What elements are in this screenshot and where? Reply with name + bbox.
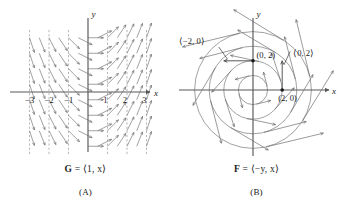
panel-a-vector-shaft: [147, 116, 152, 131]
panel-a-vector: [30, 38, 35, 53]
panel-a-vector: [30, 53, 35, 68]
panel-a-vector-shaft: [30, 38, 35, 53]
panel-a-vector: [127, 55, 134, 69]
panel-b-vector: [264, 121, 306, 132]
panel-a-vector: [49, 69, 56, 83]
panel-a-vector: [98, 124, 112, 131]
panel-a-vector: [49, 53, 56, 67]
panel-b-vector: [257, 100, 271, 104]
panel-b-vector-shaft: [247, 119, 276, 125]
panel-a-vector-shaft: [137, 132, 143, 146]
panel-b-vector: [284, 37, 295, 79]
panel-a-vector-shaft: [127, 101, 134, 115]
panel-a-vector: [127, 39, 134, 53]
panel-a-vector-shaft: [78, 115, 92, 122]
panel-a-vector: [88, 68, 104, 70]
panel-a-vector: [98, 31, 112, 38]
panel-b-vector: [231, 128, 269, 150]
panel-a-vector: [137, 116, 143, 130]
panel-b-vector: [225, 99, 234, 127]
panel-b-vector: [212, 70, 232, 92]
panel-b-vector-shaft: [193, 68, 215, 106]
panel-a-vector: [39, 115, 45, 129]
panel-a-vector: [59, 38, 68, 51]
panel-a-vector-shaft: [49, 69, 56, 83]
panel-a-vector: [137, 23, 143, 37]
panel-a-vector-shaft: [59, 115, 68, 128]
panel-a-vector: [39, 69, 45, 83]
panel-a-vector: [98, 108, 112, 115]
panel-a-vector-field-G: xy−3−2−1123 G = ⟨1, x⟩ (A): [0, 0, 171, 213]
panel-b-vector-shaft: [231, 128, 269, 150]
panel-a-vector-shaft: [59, 131, 68, 144]
panel-a-vector: [78, 100, 92, 107]
panel-a-vector: [78, 53, 92, 60]
panel-b-vector-shaft: [285, 37, 296, 79]
panel-a-vector-shaft: [147, 23, 152, 38]
panel-a-vector-shaft: [137, 70, 143, 84]
panel-a-vector-shaft: [137, 116, 143, 130]
panel-a-vector: [88, 52, 104, 54]
panel-b-vector-shaft: [267, 133, 324, 147]
panel-a-vector-shaft: [127, 24, 134, 38]
panel-b-vector-shaft: [211, 101, 222, 143]
panel-a-vector: [98, 62, 112, 69]
panel-b-vector-shaft: [303, 71, 334, 121]
panel-a-vector: [147, 116, 152, 131]
panel-a-vector: [147, 23, 152, 38]
panel-a-vector-shaft: [78, 53, 92, 60]
panel-a-vector-shaft: [98, 46, 112, 53]
panel-a-vector-shaft: [98, 108, 112, 115]
panel-b-vector: [263, 72, 267, 86]
panel-a-xtick-1: −2: [45, 95, 54, 105]
panel-b-x-axis-tip: [325, 88, 330, 93]
panel-b-vector-shaft: [212, 70, 232, 92]
panel-a-vector-shaft: [69, 115, 80, 126]
panel-a-x-axis-label: x: [153, 88, 158, 98]
panel-a-vector-shaft: [39, 131, 45, 145]
panel-a-vector-shaft: [147, 54, 152, 69]
panel-a-vector-shaft: [137, 54, 143, 68]
panel-b-vector-field-F: xy⟨−2, 0⟩(0, 2)⟨0, 2⟩(2, 0) F = ⟨−y, x⟩ …: [171, 0, 342, 213]
panel-b-annotation-vector-0-2: ⟨0, 2⟩: [293, 48, 314, 58]
panel-a-vector: [88, 145, 104, 147]
panel-a-vector: [59, 115, 68, 128]
panel-a-vector: [59, 69, 68, 82]
panel-a-vector-shaft: [98, 77, 112, 84]
panel-a-xtick-5: 3: [142, 95, 146, 105]
panel-b-y-axis-label: y: [256, 9, 261, 19]
panel-b-vector: [193, 68, 215, 106]
panel-b-vector: [239, 94, 243, 108]
panel-b-vector: [200, 48, 242, 59]
panel-a-vector: [30, 131, 35, 146]
panel-a-vector-shaft: [127, 39, 134, 53]
panel-a-vector-shaft: [30, 115, 35, 130]
panel-a-vector: [127, 86, 134, 100]
panel-a-vector-shaft: [39, 115, 45, 129]
panel-a-vector-shaft: [127, 70, 134, 84]
panel-b-vector-at-0-2: [224, 59, 253, 62]
panel-a-vector-shaft: [127, 117, 134, 131]
panel-a-vector-shaft: [127, 55, 134, 69]
panel-a-vector-shaft: [39, 38, 45, 52]
panel-a-vector-shaft: [78, 69, 92, 76]
panel-b-vector: [235, 76, 249, 80]
panel-a-vector: [59, 53, 68, 66]
panel-a-xtick-0: −3: [25, 95, 34, 105]
panel-a-vector-shaft: [69, 38, 80, 49]
panel-a-vector: [98, 139, 112, 146]
panel-b-vector-shaft: [225, 99, 234, 127]
panel-a-vector-shaft: [30, 69, 35, 84]
panel-b-x-axis-label: x: [331, 86, 336, 96]
panel-a-vector-shaft: [98, 62, 112, 69]
panel-a-vector-shaft: [59, 69, 68, 82]
panel-a-vector: [78, 38, 92, 45]
panel-a-vector: [69, 53, 80, 64]
panel-a-vector: [69, 38, 80, 49]
panel-a-vector-shaft: [49, 53, 56, 67]
panel-a-vector: [127, 24, 134, 38]
panel-a-vector-shaft: [147, 132, 152, 147]
panel-a-vector-shaft: [78, 131, 92, 138]
panel-a-vector-shaft: [59, 38, 68, 51]
panel-a-vector-shaft: [98, 31, 112, 38]
